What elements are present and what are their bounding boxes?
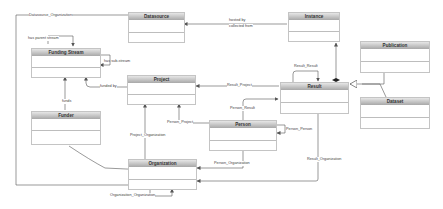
- class-datasource-title: Datasource: [129, 13, 184, 20]
- label-result-organization: Result_Organization: [307, 157, 341, 162]
- class-dataset-title: Dataset: [361, 98, 429, 105]
- class-organization[interactable]: Organization: [128, 159, 197, 190]
- class-publication[interactable]: Publication: [360, 41, 430, 73]
- class-publication-title: Publication: [361, 42, 429, 49]
- class-result-title: Result: [281, 83, 348, 90]
- class-datasource[interactable]: Datasource: [128, 12, 185, 43]
- attributes-section: [129, 20, 184, 33]
- class-funder-title: Funder: [32, 112, 100, 119]
- class-person[interactable]: Person: [209, 120, 277, 151]
- label-has-parent-stream: has parent stream: [28, 36, 59, 41]
- class-project[interactable]: Project: [127, 75, 196, 105]
- label-funded-by: funded by: [100, 84, 117, 89]
- uml-class-diagram: Datasource Instance Funding Stream Proje…: [0, 0, 443, 209]
- class-person-title: Person: [210, 121, 276, 128]
- class-instance[interactable]: Instance: [288, 12, 340, 42]
- class-dataset[interactable]: Dataset: [360, 97, 430, 129]
- label-person-person: Person_Person: [286, 127, 312, 132]
- attributes-section: [361, 49, 429, 62]
- label-result-result: Result_Result: [294, 64, 318, 69]
- label-funds: funds: [62, 99, 71, 104]
- label-organization-organization: Organization_Organization: [110, 193, 155, 198]
- attributes-section: [129, 167, 196, 180]
- class-instance-title: Instance: [289, 13, 339, 20]
- label-result-project: Result_Project: [227, 83, 252, 88]
- class-funder[interactable]: Funder: [31, 111, 101, 145]
- attributes-section: [210, 128, 276, 141]
- class-funding-stream-title: Funding Stream: [32, 49, 100, 56]
- label-person-result: Person_Result: [230, 106, 255, 111]
- label-person-project: Person_Project: [167, 120, 193, 125]
- attributes-section: [281, 90, 348, 103]
- label-person-organization: Person_Organization: [214, 161, 250, 166]
- attributes-section: [289, 20, 339, 32]
- label-hosted-by: hosted by: [229, 18, 245, 23]
- attributes-section: [32, 56, 100, 68]
- attributes-section: [361, 105, 429, 118]
- class-project-title: Project: [128, 76, 195, 83]
- class-organization-title: Organization: [129, 160, 196, 167]
- label-has-sub-stream: has sub-stream: [104, 59, 130, 64]
- label-datasource-organization: Datasource_Organization: [29, 13, 72, 18]
- label-collected-from: collected from: [229, 24, 253, 29]
- class-result[interactable]: Result: [280, 82, 349, 114]
- attributes-section: [32, 119, 100, 131]
- class-funding-stream[interactable]: Funding Stream: [31, 48, 101, 78]
- attributes-section: [128, 83, 195, 95]
- label-project-organization: Project_Organization: [130, 133, 165, 138]
